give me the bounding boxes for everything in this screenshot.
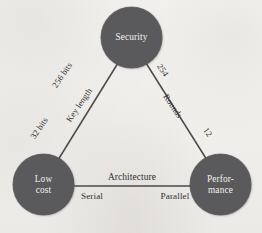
edge-value-architecture-parallel: Parallel — [161, 191, 190, 201]
node-low-cost-label-line2: cost — [36, 185, 52, 196]
node-low-cost-label-line1: Low — [35, 174, 53, 185]
node-performance-label-line2: mance — [208, 185, 233, 196]
node-performance[interactable]: Perfor- mance — [190, 154, 251, 215]
node-performance-label-line1: Perfor- — [207, 174, 234, 185]
node-security-label-line1: Security — [115, 32, 147, 43]
edge-axis-label-architecture: Architecture — [108, 172, 156, 182]
tradeoff-diagram: Security Low cost Perfor- mance 256 bits… — [0, 0, 262, 233]
node-low-cost[interactable]: Low cost — [13, 154, 74, 215]
node-security[interactable]: Security — [101, 7, 162, 68]
edge-value-architecture-serial: Serial — [81, 191, 103, 201]
